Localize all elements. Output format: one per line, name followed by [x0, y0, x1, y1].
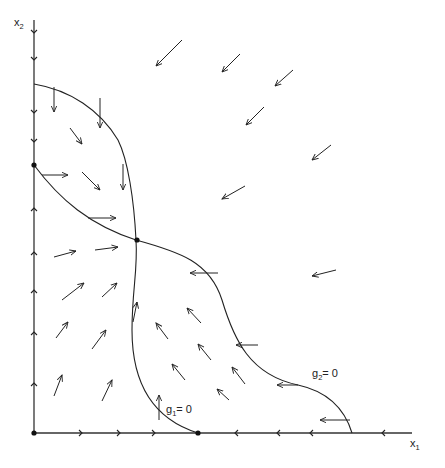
vector-arrow — [54, 251, 76, 257]
vector-arrow — [222, 54, 240, 72]
vector-arrow — [246, 107, 264, 125]
vector-arrow — [82, 172, 100, 190]
vector-arrow — [54, 375, 62, 396]
vector-arrow — [62, 283, 84, 300]
vector-arrow — [275, 70, 293, 86]
vector-arrow — [156, 323, 168, 339]
g1-nullcline — [34, 84, 198, 433]
g2-nullcline — [34, 165, 352, 433]
vector-arrow — [92, 330, 106, 349]
vector-arrow — [156, 40, 182, 66]
equilibrium-x1-axis — [195, 430, 200, 435]
vector-arrow — [102, 380, 112, 401]
phase-portrait-diagram: x2 x1 g1= 0 g2= 0 — [0, 0, 445, 468]
vector-arrow — [133, 302, 137, 322]
vector-arrow — [312, 270, 336, 276]
equilibrium-origin — [31, 430, 36, 435]
vector-arrow — [102, 283, 117, 297]
vector-arrow — [172, 364, 185, 380]
x1-axis-label: x1 — [410, 437, 420, 452]
x2-axis-label: x2 — [14, 16, 24, 31]
equilibrium-interior — [134, 237, 139, 242]
vector-arrow — [217, 389, 229, 400]
vector-arrow — [232, 367, 245, 384]
g1-label: g1= 0 — [166, 403, 192, 418]
vector-arrow — [95, 247, 118, 250]
vector-arrow — [312, 145, 331, 160]
vector-arrow — [70, 128, 82, 144]
vector-arrow — [222, 186, 245, 199]
vector-field — [42, 40, 350, 420]
g2-label: g2= 0 — [312, 367, 338, 382]
vector-arrow — [187, 308, 201, 323]
vector-arrow — [56, 322, 68, 338]
vector-arrow — [198, 344, 211, 360]
equilibrium-x2-axis — [31, 162, 36, 167]
